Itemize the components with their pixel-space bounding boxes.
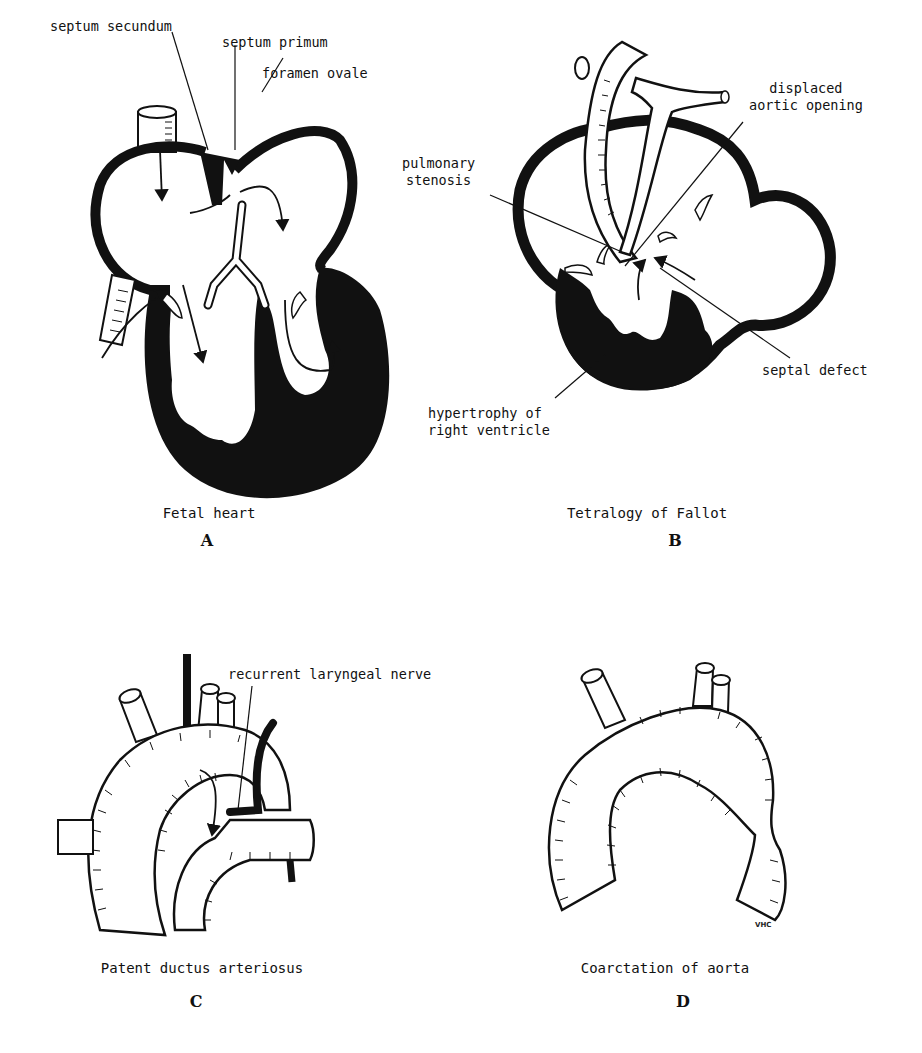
caption-coarctation-of-aorta: Coarctation of aorta (581, 960, 750, 976)
label-septal-defect: septal defect (762, 362, 868, 379)
panel-letter-c: C (190, 992, 203, 1011)
panel-letter-d: D (676, 992, 690, 1011)
right-ventricle-hypertrophy (555, 268, 712, 390)
panel-letter-b: B (668, 531, 682, 550)
left-atrium-wall (235, 131, 352, 270)
caption-tetralogy-of-fallot: Tetralogy of Fallot (567, 505, 727, 521)
aorta-arch (549, 708, 785, 920)
label-septum-primum: septum primum (222, 34, 328, 51)
coarctation-drawing (549, 663, 785, 920)
label-septum-secundum: septum secundum (50, 18, 172, 35)
label-displaced-aortic-opening: displaced aortic opening (749, 80, 863, 114)
fetal-heart-drawing (96, 32, 390, 498)
septum (200, 152, 240, 205)
label-hypertrophy-right-ventricle: hypertrophy of right ventricle (428, 405, 550, 439)
pulmonary-artery (620, 78, 725, 255)
label-recurrent-laryngeal-nerve: recurrent laryngeal nerve (228, 666, 431, 683)
artist-signature: VHC (755, 921, 771, 929)
label-foramen-ovale: foramen ovale (262, 65, 368, 82)
pda-drawing (58, 654, 314, 935)
vagus-nerve (183, 654, 191, 729)
right-atrium-wall (96, 146, 205, 290)
caption-fetal-heart: Fetal heart (163, 505, 256, 521)
caption-patent-ductus-arteriosus: Patent ductus arteriosus (101, 960, 303, 976)
panel-letter-a: A (201, 531, 213, 550)
figure-canvas: septum secundum septum primum foramen ov… (0, 0, 922, 1053)
aortic-branch-stub (575, 57, 589, 79)
label-pulmonary-stenosis: pulmonary stenosis (402, 155, 475, 189)
